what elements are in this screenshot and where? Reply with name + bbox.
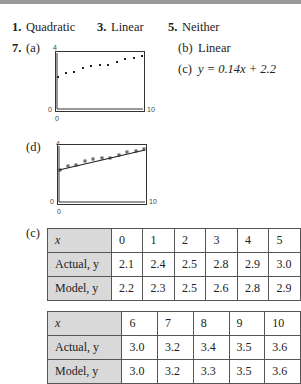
scatter-plot-a-canvas: [56, 52, 144, 111]
cell: 3.6: [265, 360, 301, 384]
cell: 3.2: [158, 360, 194, 384]
answer-3-text: Linear: [111, 20, 144, 35]
answer-7-number: 7.: [12, 41, 21, 56]
part-a-label: (a): [26, 41, 40, 56]
cell: 2.5: [174, 253, 206, 277]
row-header-actual: Actual, y: [48, 253, 112, 277]
model-equation: y = 0.14x + 2.2: [198, 62, 276, 77]
plot-a-xmin-label: 0: [55, 115, 59, 122]
plot-a-ymax-label: 4: [53, 44, 57, 51]
cell: 2.6: [206, 277, 238, 301]
row-header-model: Model, y: [48, 360, 122, 384]
answer-5-text: Neither: [182, 20, 219, 35]
cell: 3.0: [122, 360, 158, 384]
cell: 3.6: [265, 336, 301, 360]
cell: 10: [265, 312, 301, 336]
cell: 2.5: [174, 277, 206, 301]
cell: 0: [111, 229, 143, 253]
cell: 1: [143, 229, 175, 253]
cell: 2.2: [111, 277, 143, 301]
cell: 3.4: [193, 336, 229, 360]
cell: 3: [206, 229, 238, 253]
cell: 2: [174, 229, 206, 253]
cell: 6: [122, 312, 158, 336]
plot-d-ymin-label: 0: [50, 198, 54, 205]
table-part-label: (c): [26, 226, 40, 241]
comparison-table-2: x 6 7 8 9 10 Actual, y 3.0 3.2 3.4 3.5 3…: [47, 311, 301, 384]
answer-3-number: 3.: [97, 20, 106, 35]
row-header-model: Model, y: [48, 277, 112, 301]
part-b-text: Linear: [198, 41, 231, 56]
cell: 3.0: [269, 253, 301, 277]
part-d-label: (d): [26, 140, 41, 155]
plot-d-xmax-label: 10: [149, 198, 157, 205]
cell: 2.9: [237, 253, 269, 277]
answer-1-number: 1.: [12, 20, 21, 35]
cell: 7: [158, 312, 194, 336]
row-header-actual: Actual, y: [48, 336, 122, 360]
comparison-table-1: x 0 1 2 3 4 5 Actual, y 2.1 2.4 2.5 2.8 …: [47, 228, 301, 301]
cell: 2.9: [269, 277, 301, 301]
cell: 9: [229, 312, 265, 336]
page-top-rule: [0, 0, 301, 4]
plot-a-xmax-label: 10: [147, 106, 155, 113]
cell: 2.4: [143, 253, 175, 277]
answer-5-number: 5.: [168, 20, 177, 35]
plot-d-xmin-label: 0: [57, 208, 61, 215]
table-row-x: x 0 1 2 3 4 5: [48, 229, 301, 253]
cell: 2.1: [111, 253, 143, 277]
table-row-actual: Actual, y 3.0 3.2 3.4 3.5 3.6: [48, 336, 301, 360]
row-header-x: x: [48, 229, 112, 253]
table-row-model: Model, y 2.2 2.3 2.5 2.6 2.8 2.9: [48, 277, 301, 301]
plot-a-ymin-label: 0: [48, 106, 52, 113]
scatter-plot-d-canvas: [58, 145, 146, 204]
table-row-actual: Actual, y 2.1 2.4 2.5 2.8 2.9 3.0: [48, 253, 301, 277]
cell: 3.3: [193, 360, 229, 384]
row-header-x: x: [48, 312, 122, 336]
cell: 3.2: [158, 336, 194, 360]
scatter-plot-d: [57, 144, 147, 205]
regression-line: [59, 150, 145, 170]
cell: 3.5: [229, 336, 265, 360]
cell: 2.3: [143, 277, 175, 301]
cell: 2.8: [206, 253, 238, 277]
cell: 2.8: [237, 277, 269, 301]
table-row-model: Model, y 3.0 3.2 3.3 3.5 3.6: [48, 360, 301, 384]
cell: 8: [193, 312, 229, 336]
cell: 3.0: [122, 336, 158, 360]
answer-1-text: Quadratic: [26, 20, 75, 35]
part-c-label: (c): [178, 62, 192, 77]
cell: 5: [269, 229, 301, 253]
cell: 4: [237, 229, 269, 253]
table-row-x: x 6 7 8 9 10: [48, 312, 301, 336]
scatter-plot-a: [55, 51, 145, 112]
cell: 3.5: [229, 360, 265, 384]
part-b-label: (b): [178, 41, 193, 56]
